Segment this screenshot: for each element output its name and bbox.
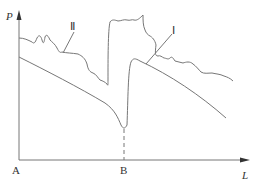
y-axis-arrow-icon: [17, 10, 22, 20]
curve-ii-label: Ⅱ: [70, 21, 75, 32]
curve-i: [19, 57, 226, 128]
x-axis-label: L: [242, 170, 248, 181]
origin-label: A: [12, 165, 20, 176]
curve-ii: [19, 15, 233, 85]
curve-i-leader-line: [146, 34, 172, 64]
x-axis-arrow-icon: [240, 158, 250, 163]
diagram-canvas: [0, 0, 258, 189]
curve-i-label: Ⅰ: [172, 25, 175, 36]
pressure-length-diagram: P L A B Ⅱ Ⅰ: [0, 0, 258, 189]
y-axis-label: P: [6, 11, 13, 22]
b-label: B: [120, 165, 127, 176]
curve-ii-leader-line: [63, 32, 74, 53]
